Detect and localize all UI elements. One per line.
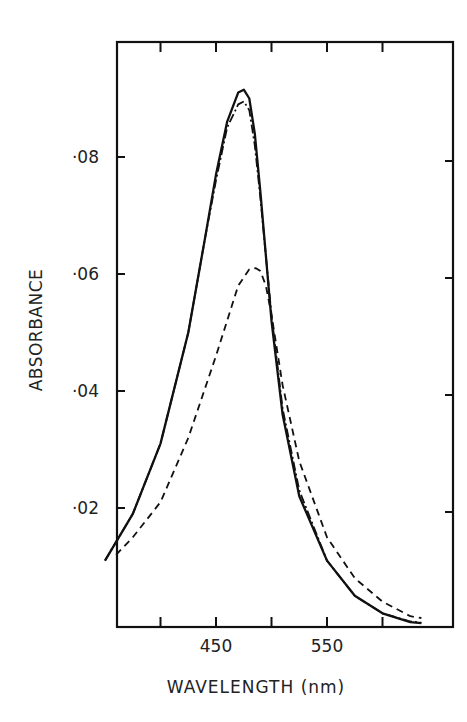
absorbance-chart: 450550 ·02·04·06·08 WAVELENGTH (nm) ABSO… xyxy=(0,0,467,722)
series-group xyxy=(105,90,421,624)
y-tick-label: ·02 xyxy=(72,498,99,518)
x-axis-label: WAVELENGTH (nm) xyxy=(167,677,345,697)
y-tick-label: ·08 xyxy=(72,147,99,167)
x-ticks: 450550 xyxy=(161,42,383,656)
x-tick-label: 450 xyxy=(200,636,232,656)
y-axis-label: ABSORBANCE xyxy=(26,269,46,392)
y-ticks: ·02·04·06·08 xyxy=(72,147,453,518)
x-tick-label: 550 xyxy=(311,636,343,656)
series-dashed xyxy=(116,268,421,618)
series-solid xyxy=(105,90,421,624)
y-tick-label: ·04 xyxy=(72,381,99,401)
plot-frame xyxy=(117,42,453,627)
y-tick-label: ·06 xyxy=(72,264,99,284)
series-dash-dot xyxy=(105,101,421,622)
